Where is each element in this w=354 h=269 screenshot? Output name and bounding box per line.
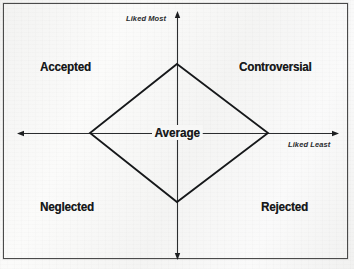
quadrant-label-rejected: Rejected <box>261 199 308 214</box>
axis-label-liked-least: Liked Least <box>288 140 330 149</box>
vertical-axis-bottom-arrow <box>175 253 180 260</box>
quadrant-label-neglected: Neglected <box>40 199 94 214</box>
center-label-average: Average <box>152 125 203 140</box>
axis-label-liked-most: Liked Most <box>126 14 166 23</box>
horizontal-axis-left-arrow <box>17 131 24 136</box>
quadrant-label-controversial: Controversial <box>239 59 312 74</box>
horizontal-axis-right-arrow <box>332 131 339 136</box>
diagram-canvas: Accepted Controversial Neglected Rejecte… <box>0 0 354 269</box>
vertical-axis-top-arrow <box>175 11 180 18</box>
quadrant-label-accepted: Accepted <box>40 59 91 74</box>
